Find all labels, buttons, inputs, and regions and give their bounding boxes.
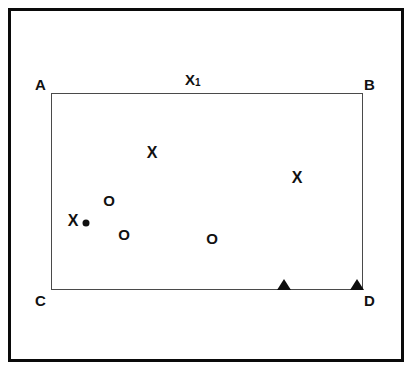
marker-x-1: X	[147, 145, 158, 161]
figure-canvas: A B C D X1 X X X O O O	[0, 0, 416, 379]
marker-x-3: X	[68, 213, 79, 229]
marker-o-2: O	[118, 227, 130, 242]
marker-o-1: O	[103, 193, 115, 208]
corner-label-d: D	[364, 293, 375, 308]
corner-label-c: C	[35, 293, 46, 308]
rectangle-abcd	[51, 93, 363, 290]
top-edge-label-x1: X1	[185, 72, 201, 87]
marker-x-2: X	[292, 170, 303, 186]
edge-label-base: X	[185, 71, 195, 88]
marker-dot-1	[83, 220, 90, 227]
marker-o-3: O	[206, 231, 218, 246]
corner-label-b: B	[364, 77, 375, 92]
marker-triangle-1	[277, 279, 291, 290]
corner-label-a: A	[35, 77, 46, 92]
edge-label-subscript: 1	[195, 77, 201, 88]
marker-triangle-2	[350, 279, 364, 290]
